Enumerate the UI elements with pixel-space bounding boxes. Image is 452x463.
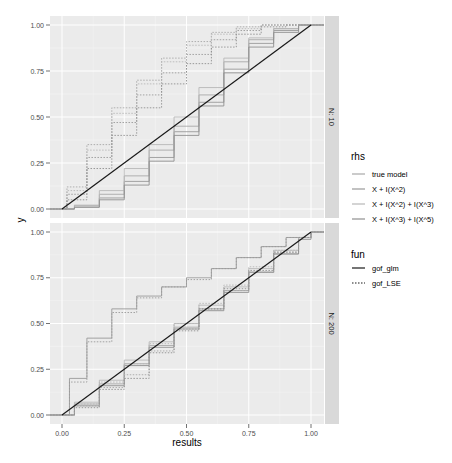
legend-rhs: rhs true modelX + I(X^2)X + I(X^2) + I(X… (351, 151, 434, 224)
legend-fun: fun gof_glm gof_LSE (351, 249, 401, 288)
legend-item-gof-lse: gof_LSE (352, 279, 401, 288)
y-tick-label: 1.00 (30, 229, 44, 236)
facet-strip-label: N: 10 (327, 108, 336, 126)
legend-label: true model (372, 170, 408, 179)
y-tick-label: 0.00 (30, 412, 44, 419)
legend-item-rhs-2: X + I(X^2) + I(X^3) (352, 200, 434, 209)
x-tick-label: 0.00 (55, 430, 69, 437)
x-axis-title: results (172, 437, 201, 448)
y-axis-title: y (15, 218, 26, 223)
legend-label: X + I(X^3) + I(X^5) (372, 215, 434, 224)
legend-title-fun: fun (351, 249, 365, 260)
legend-item-rhs-3: X + I(X^3) + I(X^5) (352, 215, 434, 224)
y-tick-label: 0.50 (30, 114, 44, 121)
y-tick-label: 0.00 (30, 206, 44, 213)
y-tick-label: 0.75 (30, 68, 44, 75)
legend-item-rhs-0: true model (352, 170, 408, 179)
x-tick-label: 0.75 (242, 430, 256, 437)
facet-panel-n200: N: 2000.000.250.500.751.00 (30, 223, 339, 424)
legend-label-gof-glm: gof_glm (372, 264, 399, 273)
x-tick-label: 0.50 (180, 430, 194, 437)
y-tick-label: 0.25 (30, 366, 44, 373)
legend-label: X + I(X^2) (372, 185, 406, 194)
y-tick-label: 1.00 (30, 22, 44, 29)
legend-title-rhs: rhs (351, 151, 365, 162)
facet-strip-label: N: 200 (327, 312, 336, 334)
facet-chart: N: 100.000.250.500.751.00N: 2000.000.250… (0, 0, 452, 463)
x-tick-label: 1.00 (304, 430, 318, 437)
x-tick-label: 0.25 (117, 430, 131, 437)
y-tick-label: 0.50 (30, 320, 44, 327)
legend-item-rhs-1: X + I(X^2) (352, 185, 406, 194)
legend-item-gof-glm: gof_glm (352, 264, 399, 273)
y-tick-label: 0.75 (30, 274, 44, 281)
y-tick-label: 0.25 (30, 160, 44, 167)
facet-panel-n10: N: 100.000.250.500.751.00 (30, 16, 339, 218)
x-axis: 0.000.250.500.751.00 (55, 424, 318, 437)
legend-label: X + I(X^2) + I(X^3) (372, 200, 434, 209)
legend-label-gof-lse: gof_LSE (372, 279, 401, 288)
